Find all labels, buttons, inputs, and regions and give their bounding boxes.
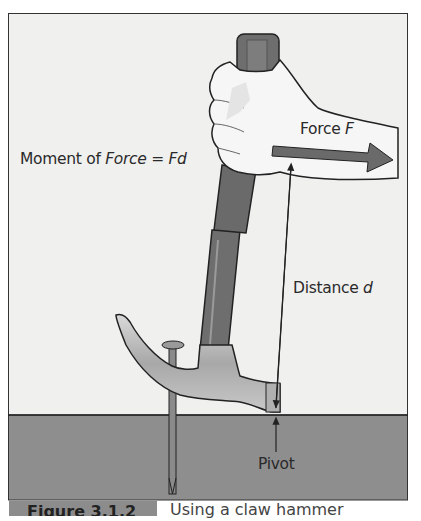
pivot-label: Pivot [258, 455, 295, 473]
figure-caption: Using a claw hammer [170, 499, 344, 521]
ground [9, 415, 408, 500]
figure-number: Figure 3.1.2 [9, 501, 157, 516]
distance-prefix: Distance [293, 279, 363, 297]
moment-of-force-label: Moment of Force = Fd [20, 150, 187, 168]
force-label: Force F [300, 120, 354, 138]
force-prefix: Force [300, 120, 345, 138]
moment-prefix: Moment of [20, 150, 105, 168]
moment-fd-italic: Fd [168, 150, 186, 168]
moment-equals: = [147, 150, 169, 168]
distance-label: Distance d [293, 279, 373, 297]
distance-var: d [363, 279, 373, 297]
moment-force-italic: Force [105, 150, 146, 168]
force-var: F [345, 120, 354, 138]
